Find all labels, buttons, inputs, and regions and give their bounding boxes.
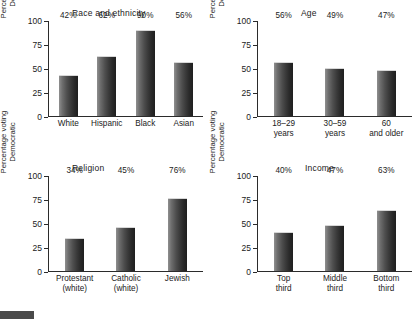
bar-slot: 47%: [309, 176, 360, 271]
x-axis-category-label: Bottom third: [361, 274, 412, 293]
plot-area: 025507510056%49%47%: [257, 21, 412, 117]
x-axis-category-label: Catholic (white): [100, 274, 151, 293]
y-axis-tick-label: 0: [37, 267, 42, 277]
y-axis-tick-label: 50: [242, 64, 251, 74]
y-axis-tick: [253, 21, 257, 22]
bar-slot: 34%: [49, 176, 100, 271]
bar-series: 34%45%76%: [49, 176, 203, 271]
bar-value-label: 47%: [378, 11, 394, 20]
x-axis-labels: 18–29 years30–59 years60 and older: [258, 119, 412, 138]
bar-slot: 63%: [361, 176, 412, 271]
y-axis-tick-label: 75: [242, 40, 251, 50]
bar: [325, 225, 344, 271]
chart-panel: Race and ethnicityPercentage voting Demo…: [0, 0, 209, 155]
y-axis-label: Percentage voting Democratic: [2, 0, 16, 35]
bar-slot: 76%: [152, 176, 203, 271]
y-axis-tick-label: 25: [242, 88, 251, 98]
y-axis-tick-label: 50: [33, 219, 42, 229]
y-axis-tick-label: 75: [33, 40, 42, 50]
bar-value-label: 90%: [137, 11, 153, 20]
y-axis-tick: [253, 272, 257, 273]
y-axis-tick: [44, 117, 48, 118]
x-axis-category-label: Middle third: [309, 274, 360, 293]
bar-value-label: 40%: [275, 166, 291, 175]
footer-swatch: [0, 311, 34, 319]
y-axis-tick-label: 25: [33, 88, 42, 98]
bar-series: 40%47%63%: [258, 176, 412, 271]
bar: [116, 227, 135, 271]
y-axis-tick: [44, 272, 48, 273]
y-axis-tick: [44, 69, 48, 70]
bar-value-label: 62%: [99, 11, 115, 20]
y-axis-tick: [253, 45, 257, 46]
bar-slot: 90%: [126, 21, 165, 116]
bar: [274, 62, 293, 116]
chart-panel: ReligionPercentage voting Democratic0255…: [0, 155, 209, 307]
y-axis-tick: [44, 176, 48, 177]
y-axis-tick-label: 75: [242, 195, 251, 205]
bar: [174, 62, 193, 116]
bar-value-label: 47%: [327, 166, 343, 175]
y-axis-tick: [44, 224, 48, 225]
plot-area: 025507510042%62%90%56%: [48, 21, 203, 117]
x-axis-category-label: Asian: [165, 119, 204, 129]
bar-series: 56%49%47%: [258, 21, 412, 116]
y-axis-tick: [253, 224, 257, 225]
bar: [325, 68, 344, 116]
x-axis-category-label: 30–59 years: [309, 119, 360, 138]
bar-slot: 56%: [165, 21, 204, 116]
bar-slot: 42%: [49, 21, 88, 116]
y-axis-tick-label: 0: [37, 112, 42, 122]
y-axis-tick: [44, 21, 48, 22]
bar: [97, 56, 116, 116]
y-axis-tick: [253, 176, 257, 177]
bar: [59, 75, 78, 116]
y-axis-label: Percentage voting Democratic: [2, 94, 16, 190]
y-axis-tick-label: 25: [242, 243, 251, 253]
x-axis-line: [48, 271, 203, 272]
bar: [136, 30, 155, 117]
footer-caption: [44, 312, 418, 319]
y-axis-tick-label: 50: [242, 219, 251, 229]
bar-slot: 47%: [361, 21, 412, 116]
bar-series: 42%62%90%56%: [49, 21, 203, 116]
chart-panel: IncomePercentage voting Democratic025507…: [209, 155, 418, 307]
y-axis-tick: [44, 200, 48, 201]
x-axis-category-label: 60 and older: [361, 119, 412, 138]
y-axis-tick: [44, 93, 48, 94]
x-axis-category-label: Top third: [258, 274, 309, 293]
y-axis-tick: [253, 93, 257, 94]
x-axis-line: [257, 116, 412, 117]
bar-slot: 56%: [258, 21, 309, 116]
plot-area: 025507510034%45%76%: [48, 176, 203, 272]
x-axis-line: [48, 116, 203, 117]
y-axis-tick-label: 0: [246, 267, 251, 277]
bar: [65, 238, 84, 271]
bar: [377, 70, 396, 116]
y-axis-tick: [44, 45, 48, 46]
bar-value-label: 56%: [176, 11, 192, 20]
x-axis-category-label: Black: [126, 119, 165, 129]
y-axis-tick-label: 25: [33, 243, 42, 253]
x-axis-category-label: Hispanic: [88, 119, 127, 129]
bar-value-label: 42%: [60, 11, 76, 20]
bar-value-label: 63%: [378, 166, 394, 175]
x-axis-labels: Protestant (white)Catholic (white)Jewish: [49, 274, 203, 293]
footer-strip: [0, 307, 418, 319]
y-axis-tick-label: 0: [246, 112, 251, 122]
y-axis-tick: [253, 200, 257, 201]
y-axis-tick-label: 100: [237, 16, 251, 26]
chart-grid: Race and ethnicityPercentage voting Demo…: [0, 0, 418, 307]
y-axis-tick-label: 100: [237, 171, 251, 181]
y-axis-tick-label: 50: [33, 64, 42, 74]
y-axis-tick-label: 75: [33, 195, 42, 205]
chart-title: Age: [301, 8, 317, 18]
bar-value-label: 34%: [66, 166, 82, 175]
y-axis-label: Percentage voting Democratic: [211, 94, 225, 190]
x-axis-line: [257, 271, 412, 272]
x-axis-category-label: White: [49, 119, 88, 129]
bar-slot: 45%: [100, 176, 151, 271]
bar: [377, 210, 396, 271]
bar-value-label: 45%: [118, 166, 134, 175]
bar-slot: 49%: [309, 21, 360, 116]
